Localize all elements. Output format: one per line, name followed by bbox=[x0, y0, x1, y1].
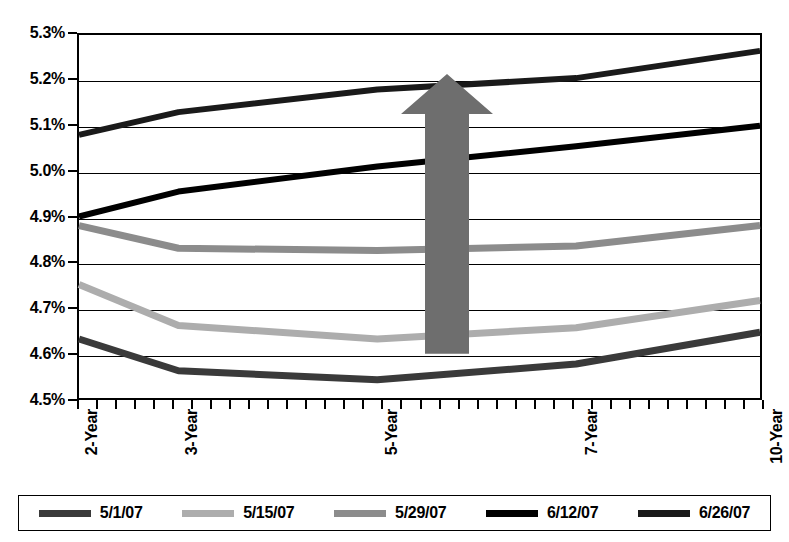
y-axis-tick-label: 5.2% bbox=[30, 71, 65, 87]
x-axis-tick bbox=[362, 400, 364, 409]
x-axis-tick bbox=[762, 400, 764, 409]
y-axis-tick bbox=[68, 353, 77, 355]
x-axis-tick bbox=[743, 400, 745, 409]
legend-label: 5/1/07 bbox=[100, 504, 143, 522]
y-axis-tick bbox=[68, 307, 77, 309]
x-axis-tick bbox=[248, 400, 250, 409]
x-axis-tick bbox=[534, 400, 536, 409]
y-axis-tick bbox=[68, 261, 77, 263]
y-axis: 5.3%5.2%5.1%5.0%4.9%4.8%4.7%4.6%4.5% bbox=[0, 0, 77, 400]
x-axis-tick bbox=[305, 400, 307, 409]
upward-trend-arrow-annotation bbox=[397, 74, 497, 354]
x-axis-tick bbox=[686, 400, 688, 409]
y-axis-tick-label: 5.1% bbox=[30, 117, 65, 133]
x-axis-tick bbox=[458, 400, 460, 409]
x-axis-tick bbox=[229, 400, 231, 409]
x-axis-tick bbox=[153, 400, 155, 409]
x-axis-label-10-year: 10-Year bbox=[768, 409, 786, 464]
y-axis-tick bbox=[68, 216, 77, 218]
y-axis-tick-label: 4.5% bbox=[30, 392, 65, 408]
arrow-up-icon bbox=[397, 74, 497, 354]
x-axis-tick bbox=[629, 400, 631, 409]
x-axis-tick bbox=[172, 400, 174, 409]
y-axis-tick-label: 4.7% bbox=[30, 300, 65, 316]
x-axis-labels: 2-Year3-Year5-Year7-Year10-Year bbox=[77, 409, 762, 499]
legend-item[interactable]: 6/26/07 bbox=[638, 504, 750, 522]
x-axis-tick bbox=[286, 400, 288, 409]
x-axis-tick bbox=[115, 400, 117, 409]
x-axis-tick bbox=[553, 400, 555, 409]
x-axis-label-3-year: 3-Year bbox=[183, 409, 201, 455]
x-axis-tick bbox=[324, 400, 326, 409]
x-axis-label-2-year: 2-Year bbox=[83, 409, 101, 455]
legend-swatch-icon bbox=[182, 510, 234, 517]
x-axis-tick bbox=[439, 400, 441, 409]
x-axis-tick bbox=[648, 400, 650, 409]
x-axis-tick bbox=[400, 400, 402, 409]
y-axis-tick bbox=[68, 124, 77, 126]
x-axis-tick bbox=[420, 400, 422, 409]
legend-item[interactable]: 5/15/07 bbox=[182, 504, 294, 522]
x-axis-tick bbox=[477, 400, 479, 409]
y-axis-tick bbox=[68, 78, 77, 80]
legend-swatch-icon bbox=[638, 510, 690, 517]
y-axis-tick bbox=[68, 32, 77, 34]
legend-swatch-icon bbox=[334, 510, 386, 517]
legend-item[interactable]: 6/12/07 bbox=[486, 504, 598, 522]
legend-item[interactable]: 5/29/07 bbox=[334, 504, 446, 522]
x-axis-label-7-year: 7-Year bbox=[583, 409, 601, 455]
x-axis-tick bbox=[191, 400, 193, 409]
x-axis-tick bbox=[343, 400, 345, 409]
y-axis-tick bbox=[68, 170, 77, 172]
x-axis-tick bbox=[96, 400, 98, 409]
x-axis-tick bbox=[210, 400, 212, 409]
y-axis-tick bbox=[68, 399, 77, 401]
x-axis-tick bbox=[381, 400, 383, 409]
x-axis-tick bbox=[515, 400, 517, 409]
y-axis-tick-label: 4.8% bbox=[30, 254, 65, 270]
x-axis-tick bbox=[705, 400, 707, 409]
x-axis-tick bbox=[77, 400, 79, 409]
x-axis-tick bbox=[496, 400, 498, 409]
legend-swatch-icon bbox=[486, 510, 538, 517]
y-axis-tick-label: 4.9% bbox=[30, 209, 65, 225]
x-axis-tick bbox=[591, 400, 593, 409]
x-axis-ticks bbox=[77, 400, 762, 409]
legend-label: 6/12/07 bbox=[547, 504, 598, 522]
x-axis-tick bbox=[572, 400, 574, 409]
legend-label: 5/15/07 bbox=[243, 504, 294, 522]
legend-label: 5/29/07 bbox=[395, 504, 446, 522]
x-axis-tick bbox=[610, 400, 612, 409]
legend-label: 6/26/07 bbox=[699, 504, 750, 522]
y-axis-tick-label: 5.3% bbox=[30, 25, 65, 41]
y-axis-tick-label: 5.0% bbox=[30, 163, 65, 179]
yield-curve-chart: 5.3%5.2%5.1%5.0%4.9%4.8%4.7%4.6%4.5% 2-Y… bbox=[0, 0, 789, 542]
chart-legend: 5/1/075/15/075/29/076/12/076/26/07 bbox=[18, 495, 771, 531]
y-axis-tick-label: 4.6% bbox=[30, 346, 65, 362]
x-axis-tick bbox=[267, 400, 269, 409]
x-axis-label-5-year: 5-Year bbox=[383, 409, 401, 455]
x-axis-tick bbox=[724, 400, 726, 409]
legend-swatch-icon bbox=[39, 510, 91, 517]
x-axis-tick bbox=[667, 400, 669, 409]
legend-item[interactable]: 5/1/07 bbox=[39, 504, 143, 522]
x-axis-tick bbox=[134, 400, 136, 409]
